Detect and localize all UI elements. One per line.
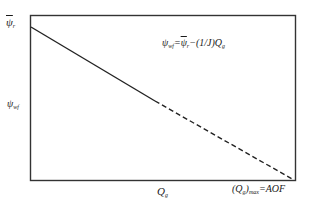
- subscript-wf: wf: [13, 104, 19, 110]
- y-axis-label: ψwf: [7, 99, 19, 110]
- psi-symbol: ψ: [6, 16, 13, 28]
- aof-sub-max: max: [249, 189, 259, 195]
- ipr-equation: ψwf=ψr−(1/J)Qg: [162, 38, 225, 49]
- aof-rhs: =AOF: [259, 183, 285, 194]
- solid-ipr-line: [31, 27, 155, 101]
- aof-open: (Q: [232, 183, 243, 194]
- eq-minus: −: [189, 37, 196, 48]
- subscript-g: g: [165, 192, 168, 198]
- x-axis-label: Qg: [157, 186, 168, 198]
- subscript-r: r: [13, 23, 15, 29]
- q-symbol: Q: [157, 185, 165, 197]
- eq-fraction: (1/J): [196, 37, 215, 48]
- eq-equals: =: [174, 37, 181, 48]
- eq-q: Q: [215, 37, 222, 48]
- reservoir-pseudopressure-label: ψr: [6, 17, 15, 29]
- dashed-extrapolation-line: [155, 101, 294, 180]
- aof-label: (Qg)max=AOF: [232, 184, 285, 195]
- eq-q-sub: g: [222, 43, 225, 49]
- ipr-diagram: [0, 0, 311, 210]
